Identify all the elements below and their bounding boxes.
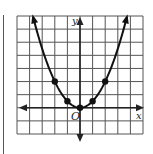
x-axis-label: x (136, 110, 142, 121)
origin-label: O (71, 110, 80, 123)
y-axis-label: y (71, 15, 78, 26)
data-point (102, 78, 108, 84)
data-point (89, 98, 95, 104)
data-point (52, 78, 58, 84)
parabola-graph: y x O (0, 0, 153, 154)
data-point (64, 98, 70, 104)
